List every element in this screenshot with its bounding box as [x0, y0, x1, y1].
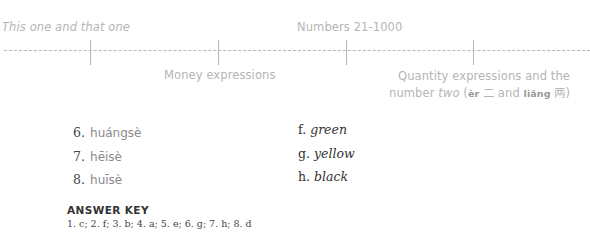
timeline-tick — [346, 40, 347, 65]
option-item: g. yellow — [298, 146, 355, 161]
option-item: f. green — [298, 122, 347, 137]
timeline-dashed-line — [4, 50, 590, 51]
exercise-item: 7. hēisè — [73, 146, 122, 165]
timeline-label-money: Money expressions — [164, 68, 276, 82]
answer-key-body: 1. c; 2. f; 3. b; 4. a; 5. e; 6. g; 7. h… — [67, 218, 252, 229]
quantity-line-2: number two (èr 二 and liǎng 两) — [389, 85, 570, 102]
option-item: h. black — [298, 169, 348, 184]
quantity-line-1: Quantity expressions and the — [389, 68, 570, 85]
timeline-tick — [90, 40, 91, 65]
answer-key-title: ANSWER KEY — [67, 204, 149, 216]
timeline-tick — [473, 40, 474, 65]
timeline-label-this-that: This one and that one — [2, 20, 130, 34]
exercise-item: 8. huīsè — [73, 169, 122, 188]
exercise-item: 6. huángsè — [73, 122, 141, 141]
timeline-tick — [218, 40, 219, 65]
timeline-label-numbers: Numbers 21-1000 — [297, 20, 402, 34]
timeline-label-quantity: Quantity expressions and the number two … — [389, 68, 570, 102]
